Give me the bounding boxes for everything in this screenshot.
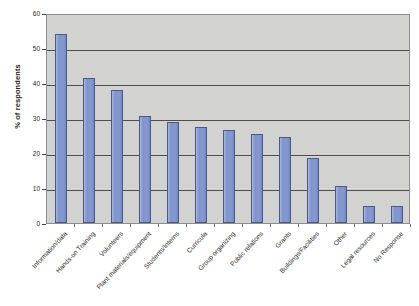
- bar: [223, 130, 235, 223]
- y-tick-label: 50: [14, 46, 40, 52]
- bar-chart: % of respondents 0102030405060 Informati…: [0, 0, 419, 306]
- x-axis-labels: Information/dataHands-on TrainingVolunte…: [46, 224, 410, 306]
- y-tick-label: 30: [14, 116, 40, 122]
- bar: [363, 206, 375, 224]
- bar: [55, 34, 67, 223]
- y-tick-label: 40: [14, 81, 40, 87]
- y-tick-label: 20: [14, 151, 40, 157]
- y-tick-label: 60: [14, 11, 40, 17]
- y-tick-label: 10: [14, 186, 40, 192]
- y-tick-label: 0: [14, 221, 40, 227]
- bars-layer: [47, 15, 409, 223]
- bar: [307, 158, 319, 223]
